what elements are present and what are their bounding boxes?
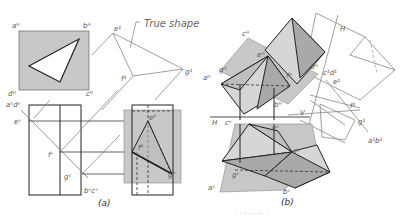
label-c1d1: c¹d¹ — [323, 69, 337, 77]
label-cH-b: cᴴ — [242, 30, 250, 38]
label-dH: dᴴ — [8, 90, 16, 98]
label-cV-b: cᵛ — [225, 119, 232, 127]
caption-a: (a) — [98, 198, 111, 208]
label-f1-b: f¹ — [350, 102, 355, 110]
label-g1: g¹ — [185, 68, 192, 76]
label-H-fold: H — [212, 119, 218, 127]
label-eH-b: eᴴ — [257, 51, 265, 59]
label-bH: bᴴ — [83, 22, 91, 30]
label-aH: aᴴ — [12, 22, 20, 30]
view-a: aᴴ bᴴ dᴴ cᴴ e¹ f¹ g¹ True shape aᵛdᵛ eᵛ … — [6, 18, 199, 208]
label-bH-b: bᴴ — [274, 101, 282, 109]
label-aV-b: aᵛ — [208, 184, 215, 192]
label-gH-b: gᴴ — [219, 66, 227, 74]
label-fV-b: fᵛ — [294, 148, 299, 156]
label-g1-b: g¹ — [358, 118, 365, 126]
label-dH-b: dᴴ — [310, 63, 318, 71]
label-eV: eᵛ — [14, 118, 21, 126]
label-bVcV: bᵛcᵛ — [84, 187, 98, 195]
label-V-fold: V — [300, 109, 306, 117]
label-gV: gᵛ — [64, 173, 71, 181]
label-aH-b: aᴴ — [203, 74, 211, 82]
label-gV-b: gᵛ — [232, 171, 239, 179]
view-b: H c¹d¹ e¹ f¹ g¹ a¹b¹ cᴴ eᴴ aᴴ gᴴ fᴴ dᴴ b… — [203, 13, 395, 207]
label-cH: cᴴ — [86, 90, 94, 98]
label-fP: fᴾ — [138, 144, 143, 152]
label-e1: e¹ — [114, 25, 121, 33]
label-eV-b: eᵛ — [272, 124, 279, 132]
true-shape-annotation: True shape — [144, 18, 199, 29]
label-gP: gᴾ — [168, 171, 175, 179]
label-fH-b: fᴴ — [286, 72, 292, 80]
true-shape-triangle-aux — [113, 33, 183, 76]
label-bV-b: bᵛ — [283, 188, 290, 196]
label-H-top: H — [340, 25, 346, 33]
front-view — [29, 105, 81, 195]
label-e1-b: e¹ — [333, 78, 340, 86]
label-aVdV: aᵛdᵛ — [6, 101, 21, 109]
label-f1: f¹ — [121, 75, 126, 83]
orthographic-projection-figure: aᴴ bᴴ dᴴ cᴴ e¹ f¹ g¹ True shape aᵛdᵛ eᵛ … — [0, 0, 403, 218]
label-fV: fᵛ — [48, 151, 53, 159]
label-a1b1: a¹b¹ — [368, 137, 383, 145]
label-eP: eᴾ — [149, 114, 156, 122]
footer-faint-text: · · · · · ··· · — [235, 210, 268, 218]
caption-b: (b) — [281, 197, 294, 207]
